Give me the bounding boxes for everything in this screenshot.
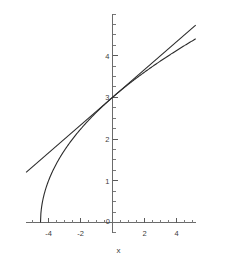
chart-container: -4-224 1234 0 x — [0, 0, 237, 275]
x-axis-tick-labels: -4-224 — [45, 229, 178, 238]
x-tick-label: -2 — [77, 229, 84, 238]
y-tick-label: 1 — [105, 177, 109, 186]
x-tick-label: 4 — [174, 229, 178, 238]
tangent-line — [26, 25, 196, 172]
x-tick-label: -4 — [45, 229, 52, 238]
y-tick-label: 3 — [105, 93, 109, 102]
x-axis-label: x — [117, 246, 121, 255]
function-curve — [41, 39, 196, 223]
y-axis-tick-labels: 1234 — [105, 52, 109, 186]
plot-canvas: -4-224 1234 0 x — [0, 0, 237, 275]
series-group — [26, 25, 196, 222]
y-tick-label: 4 — [105, 52, 109, 61]
origin-tick-label: 0 — [106, 217, 110, 226]
y-tick-label: 2 — [105, 135, 109, 144]
x-tick-label: 2 — [142, 229, 146, 238]
